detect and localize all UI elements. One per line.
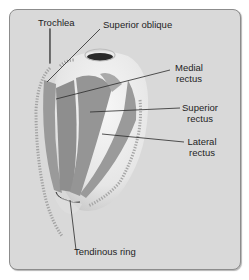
label-medial-rectus-line2: rectus — [170, 73, 208, 84]
label-trochlea: Trochlea — [38, 17, 75, 28]
label-superior-rectus-line2: rectus — [180, 113, 220, 124]
label-lateral-rectus-line2: rectus — [184, 147, 220, 158]
label-lateral-rectus-line1: Lateral — [184, 136, 220, 147]
pupil-icon — [85, 49, 115, 61]
label-lateral-rectus: Lateral rectus — [184, 136, 220, 158]
label-superior-rectus-line1: Superior — [180, 102, 220, 113]
label-medial-rectus-line1: Medial — [170, 62, 208, 73]
label-superior-oblique: Superior oblique — [103, 19, 172, 30]
label-medial-rectus: Medial rectus — [170, 62, 208, 84]
label-superior-rectus: Superior rectus — [180, 102, 220, 124]
label-tendinous-ring: Tendinous ring — [74, 246, 136, 257]
